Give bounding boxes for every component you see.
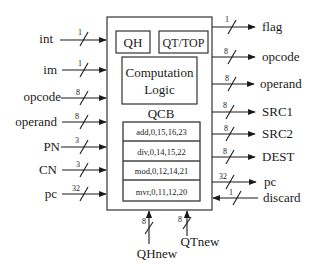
input-pc: pc 32 (45, 184, 106, 201)
qcb-row: mod,0,12,14,21 (135, 166, 188, 176)
output-dest: 8 DEST (212, 147, 295, 164)
bus-width: 1 (225, 15, 229, 24)
signal-label: im (43, 62, 57, 77)
computation-logic-line2: Logic (144, 82, 175, 97)
bus-width: 8 (224, 47, 228, 56)
computation-logic-line1: Computation (126, 65, 194, 80)
qcb-row: div,0,14,15,22 (137, 147, 186, 157)
bus-width: 1 (229, 188, 233, 197)
signal-label: opcode (23, 89, 61, 104)
signal-label: pc (45, 186, 58, 201)
signal-label: discard (263, 190, 301, 205)
qh-label: QH (124, 35, 143, 50)
signal-label: PN (43, 139, 60, 154)
bus-width: 8 (224, 124, 228, 133)
bus-width: 3 (75, 136, 79, 145)
qt-top-label: QT/TOP (163, 36, 205, 50)
qcb-row: mvr,0,11,12,20 (136, 187, 187, 197)
bus-width: 8 (223, 147, 227, 156)
bus-width: 32 (219, 172, 227, 181)
bus-width: 8 (75, 112, 79, 121)
input-im: im 1 (43, 59, 106, 77)
bus-width: 8 (223, 101, 227, 110)
bus-width: 3 (76, 160, 80, 169)
input-pn: PN 3 (43, 136, 106, 154)
output-flag: 1 flag (212, 15, 283, 34)
bus-width: 8 (76, 88, 80, 97)
qcb-row: add,0,15,16,23 (136, 127, 187, 137)
input-operand: operand 8 (15, 112, 106, 129)
output-src2: 8 SRC2 (212, 124, 293, 141)
input-opcode: opcode 8 (23, 88, 106, 105)
bus-width: 8 (178, 215, 182, 224)
qcb-label: QCB (148, 106, 175, 121)
bus-width: 1 (78, 28, 82, 37)
output-opcode: 8 opcode (212, 47, 300, 64)
signal-label: QTnew (181, 234, 221, 249)
output-operand: 8 operand (212, 74, 302, 91)
signal-label: SRC1 (262, 104, 293, 119)
signal-label: SRC2 (262, 126, 293, 141)
signal-label: opcode (262, 49, 300, 64)
signal-label: flag (262, 19, 283, 34)
signal-label: int (39, 31, 53, 46)
bus-width: 32 (72, 184, 80, 193)
block-diagram: QH QT/TOP Computation Logic QCB add,0,15… (0, 0, 319, 269)
output-src1: 8 SRC1 (212, 101, 293, 119)
signal-label: operand (15, 114, 57, 129)
signal-label: operand (260, 76, 302, 91)
input-qtnew: 8 QTnew (178, 211, 220, 249)
signal-label: CN (39, 162, 58, 177)
output-pc: 32 pc (212, 172, 277, 189)
signal-label: pc (264, 174, 277, 189)
input-discard: 1 discard (213, 188, 301, 205)
input-cn: CN 3 (39, 160, 106, 177)
input-int: int 1 (39, 28, 106, 46)
input-qhnew: 8 QHnew (137, 211, 178, 261)
qcb-table: add,0,15,16,23 div,0,14,15,22 mod,0,12,1… (123, 122, 200, 201)
bus-width: 8 (142, 217, 146, 226)
bus-width: 8 (225, 74, 229, 83)
signal-label: DEST (262, 149, 295, 164)
signal-label: QHnew (137, 246, 178, 261)
bus-width: 1 (78, 59, 82, 68)
